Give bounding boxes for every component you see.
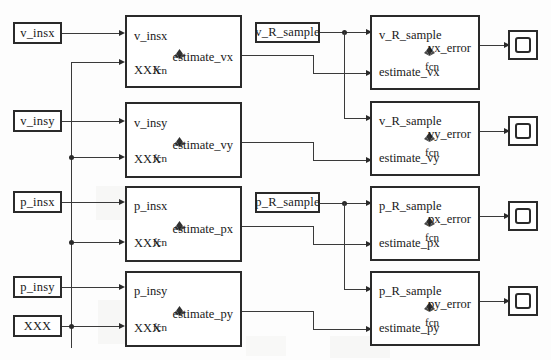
output-port-label: px_error [428,212,471,227]
wire-estimate_py-out [313,311,314,329]
wire-estimate_vx-out [313,55,314,73]
estimator-block-estimate_px[interactable]: p_insx XXX estimate_px fcn [125,186,242,262]
fcn-label: fcn [425,60,439,72]
junction-dot [69,324,74,329]
wire-p_R_sample-to-py-error [344,289,368,290]
fcn-label: fcn [153,64,167,76]
sample-label: p_R_sample [255,195,320,210]
output-port-label: estimate_px [173,222,233,237]
wire-bus-to-estimate_vy-xxx [71,157,121,158]
scope-block-py[interactable] [508,286,538,316]
wire-left-bus [71,62,72,348]
fcn-label: fcn [153,152,167,164]
scope-screen-icon [515,123,531,139]
sample-block-p_R_sample[interactable]: p_R_sample [255,192,320,213]
fcn-label: fcn [153,236,167,248]
source-label: p_insy [20,280,55,295]
error-block-vy_error[interactable]: v_R_sample estimate_vy vy_error fcn [370,101,480,176]
error-block-py_error[interactable]: p_R_sample estimate_py py_error fcn [370,271,480,346]
source-label: v_insx [20,26,55,41]
output-port-label: py_error [428,297,471,312]
wire-p_insy-to-estimate_py [62,287,121,288]
scan-smudge [246,336,286,356]
wire-bus-to-estimate_vx-xxx [71,62,121,63]
wire-estimate_vy-out [313,142,314,160]
source-label: XXX [24,319,52,334]
estimator-block-estimate_vy[interactable]: v_insy XXX estimate_vy fcn [125,102,242,178]
junction-dot [69,155,74,160]
input-port-label-1: v_insx [134,29,167,44]
wire-estimate_py-to-error [313,329,368,330]
output-port-label: estimate_vy [173,138,233,153]
wire-bus-to-estimate_px-xxx [71,242,121,243]
source-label: v_insy [20,114,55,129]
scope-block-vx[interactable] [508,30,538,60]
wire-p_R_sample-branch [344,203,345,289]
wire-estimate_px-to-error [313,244,368,245]
block-diagram-canvas: v_insx v_insy p_insx p_insy XXX v_insx X… [0,0,551,360]
source-block-xxx[interactable]: XXX [13,315,62,337]
wire-v_insy-to-estimate_vy [62,121,121,122]
sample-label: v_R_sample [255,25,320,40]
source-block-v_insy[interactable]: v_insy [13,110,62,132]
wire-estimate_vx-out [242,55,313,56]
source-block-p_insx[interactable]: p_insx [13,191,62,213]
output-port-label: estimate_py [173,307,233,322]
input-port-label-1: p_insy [134,284,167,299]
estimator-block-estimate_py[interactable]: p_insy XXX estimate_py fcn [125,271,242,347]
estimator-block-estimate_vx[interactable]: v_insx XXX estimate_vx fcn [125,15,242,88]
wire-v_R_sample-to-vy-error [344,118,368,119]
wire-estimate_vy-to-error [313,160,368,161]
scope-block-vy[interactable] [508,116,538,146]
fcn-label: fcn [153,321,167,333]
fcn-label: fcn [425,231,439,243]
wire-estimate_px-out [242,226,313,227]
fcn-label: fcn [425,316,439,328]
fcn-label: fcn [425,146,439,158]
wire-estimate_vy-out [242,142,313,143]
error-block-vx_error[interactable]: v_R_sample estimate_vx vx_error fcn [370,15,480,90]
scope-screen-icon [515,293,531,309]
source-block-p_insy[interactable]: p_insy [13,276,62,298]
source-block-v_insx[interactable]: v_insx [13,22,62,44]
scope-screen-icon [515,37,531,53]
error-block-px_error[interactable]: p_R_sample estimate_px px_error fcn [370,186,480,261]
wire-p_insx-to-estimate_px [62,202,121,203]
scope-block-px[interactable] [508,201,538,231]
sample-block-v_R_sample[interactable]: v_R_sample [255,22,320,43]
wire-v_insx-to-estimate_vx [62,33,121,34]
wire-estimate_vx-to-error [313,73,368,74]
output-port-label: vy_error [428,127,471,142]
junction-dot [69,240,74,245]
wire-estimate_py-out [242,311,313,312]
input-port-label-1: v_insy [134,116,167,131]
output-port-label: estimate_vx [173,50,233,65]
output-port-label: vx_error [428,41,471,56]
wire-estimate_px-out [313,226,314,244]
scope-screen-icon [515,208,531,224]
input-port-label-1: p_insx [134,199,167,214]
source-label: p_insx [20,195,55,210]
wire-v_R_sample-branch [344,32,345,118]
